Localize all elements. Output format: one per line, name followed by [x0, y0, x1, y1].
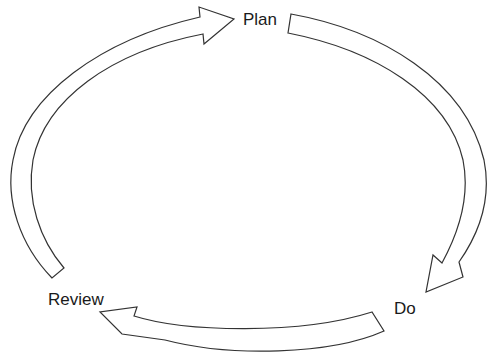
node-do: Do	[394, 299, 416, 319]
node-plan: Plan	[243, 10, 277, 30]
arrow-do-to-review	[100, 307, 384, 351]
node-review: Review	[48, 290, 104, 310]
arrow-plan-to-do	[288, 14, 486, 292]
arrow-review-to-plan	[11, 7, 234, 278]
